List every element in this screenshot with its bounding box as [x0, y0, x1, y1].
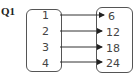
mapping-arrows: [0, 0, 134, 77]
